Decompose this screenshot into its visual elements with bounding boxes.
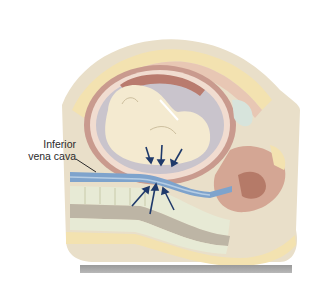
label-line-1: Inferior — [14, 138, 76, 150]
illustration: Inferior vena cava — [0, 0, 315, 290]
label-line-2: vena cava — [14, 150, 76, 162]
table-surface — [80, 265, 292, 273]
label-inferior-vena-cava: Inferior vena cava — [14, 138, 76, 162]
